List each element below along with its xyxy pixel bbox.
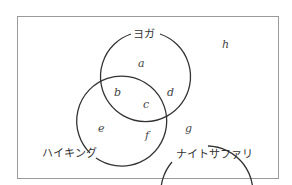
venn-diagram: ヨガ ハイキング ナイトサファリ a b c d e f g h: [0, 0, 292, 185]
region-a: a: [138, 57, 145, 70]
set-label-hiking: ハイキング: [42, 146, 97, 160]
region-c: c: [143, 98, 149, 111]
region-h: h: [222, 38, 229, 51]
region-e: e: [98, 122, 105, 135]
set-label-yoga: ヨガ: [133, 28, 155, 41]
region-b: b: [114, 86, 121, 99]
region-d: d: [167, 86, 174, 99]
region-f: f: [144, 129, 151, 142]
region-g: g: [185, 122, 192, 135]
set-label-night-safari: ナイトサファリ: [176, 148, 253, 161]
